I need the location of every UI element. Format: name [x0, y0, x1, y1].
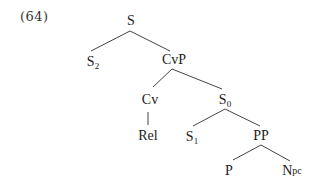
node-p-label: P [225, 163, 233, 178]
edge-cvp-cv [153, 69, 172, 87]
tree-edges [0, 0, 322, 188]
edge-pp-p [233, 145, 261, 160]
node-cv: Cv [142, 93, 158, 107]
node-s0-label: S [219, 92, 227, 107]
node-pp-label: PP [253, 128, 269, 143]
node-s: S [127, 14, 135, 28]
node-rel-label: Rel [138, 128, 157, 143]
node-cvp: CvP [162, 53, 186, 67]
node-pp: PP [253, 129, 269, 143]
node-cv-label: Cv [142, 92, 158, 107]
node-npc: Npc [282, 164, 302, 178]
node-s0: S0 [219, 93, 231, 107]
node-cvp-label: CvP [162, 52, 186, 67]
node-p: P [225, 164, 233, 178]
edge-cvp-s0 [172, 69, 222, 89]
node-rel: Rel [138, 129, 157, 143]
node-s1-label: S [186, 129, 194, 144]
node-s0-subscript: 0 [227, 99, 232, 109]
edge-pp-npc [261, 145, 290, 161]
node-s2-subscript: 2 [95, 61, 100, 71]
node-s-label: S [127, 13, 135, 28]
node-npc-label: N [282, 163, 292, 178]
edge-s-s2 [91, 31, 130, 51]
edge-s0-pp [225, 109, 260, 126]
node-npc-suffix: pc [292, 165, 301, 176]
edge-s0-s1 [193, 109, 225, 126]
node-s1-subscript: 1 [194, 136, 199, 146]
edge-s-cvp [130, 31, 170, 51]
node-s2-label: S [87, 54, 95, 69]
node-s2: S2 [87, 55, 99, 69]
node-s1: S1 [186, 130, 198, 144]
